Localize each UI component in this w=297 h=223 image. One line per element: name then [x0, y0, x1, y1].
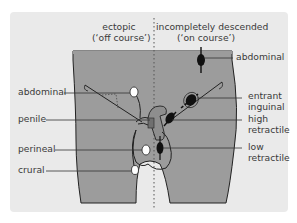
label-high-retractile: high retractile	[248, 114, 290, 135]
ectopic-header-line1: ectopic	[92, 21, 146, 32]
label-entrant-inguinal-line1: entrant	[248, 91, 285, 102]
ectopic-header-line2: (‘off course’)	[92, 32, 146, 43]
ectopic-header: ectopic (‘off course’)	[92, 21, 146, 43]
label-incomplete-abdominal: abdominal	[236, 52, 284, 63]
label-ectopic-abdominal: abdominal	[18, 87, 66, 98]
ectopic-crural-testis	[132, 166, 139, 175]
label-ectopic-penile: penile	[18, 114, 46, 125]
label-ectopic-crural: crural	[18, 165, 45, 176]
label-entrant-inguinal-line2: inguinal	[248, 102, 285, 113]
label-high-retractile-line2: retractile	[248, 125, 290, 136]
label-ectopic-perineal: perineal	[18, 144, 55, 155]
incomplete-header: incompletely descended (‘on course’)	[156, 21, 256, 43]
incomplete-header-line1: incompletely descended	[156, 21, 256, 32]
label-low-retractile: low retractile	[248, 142, 290, 163]
incomplete-header-line2: (‘on course’)	[156, 32, 256, 43]
ectopic-abdominal-testis	[130, 87, 138, 97]
label-low-retractile-line2: retractile	[248, 153, 290, 164]
label-entrant-inguinal: entrant inguinal	[248, 91, 285, 112]
label-high-retractile-line1: high	[248, 114, 290, 125]
ectopic-perineal-testis	[142, 145, 150, 155]
label-low-retractile-line1: low	[248, 142, 290, 153]
